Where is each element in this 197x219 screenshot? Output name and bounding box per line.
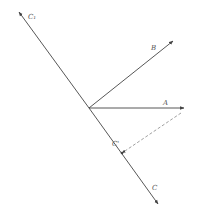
vector-b-arrow bbox=[89, 41, 173, 108]
projection-point-marker bbox=[121, 152, 124, 155]
vector-b-label: B bbox=[150, 44, 156, 52]
vector-c-arrow bbox=[89, 108, 158, 204]
vector-a-label: A bbox=[162, 99, 168, 107]
vector-c1-label: C₁ bbox=[28, 13, 36, 21]
projection-dashed-line bbox=[122, 113, 181, 153]
vector-c1-arrow bbox=[19, 12, 89, 108]
vector-c-label: C bbox=[152, 184, 158, 192]
projection-c-prime-label: C' bbox=[112, 140, 119, 148]
vector-diagram: C₁CBAC' bbox=[0, 0, 197, 219]
